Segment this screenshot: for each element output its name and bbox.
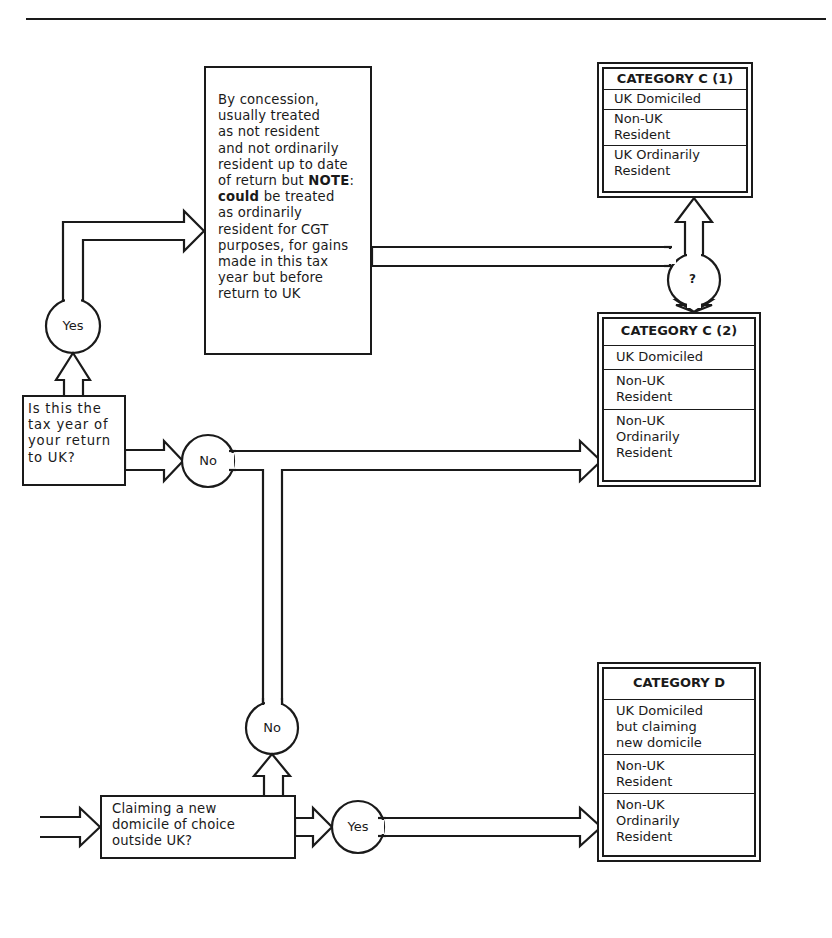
question-box-return-year: Is this the tax year of your return to U… — [22, 395, 126, 486]
category-row: Non-UK Ordinarily Resident — [604, 409, 754, 465]
note-line: as ordinarily — [218, 205, 362, 221]
category-c1-box: CATEGORY C (1) UK Domiciled Non-UK Resid… — [597, 62, 753, 198]
question-line: Is this the — [28, 401, 124, 417]
question-line: domicile of choice — [112, 817, 294, 833]
category-row-text: Resident — [616, 389, 754, 405]
note-line: of return but NOTE: — [218, 173, 362, 189]
note-text: be treated — [259, 189, 334, 204]
category-row: UK Domiciled — [604, 89, 746, 109]
category-row: Non-UK Resident — [604, 369, 754, 409]
category-row: UK Ordinarily Resident — [604, 145, 746, 181]
note-line: could be treated — [218, 189, 362, 205]
arrow-no-to-cat-c2 — [228, 441, 601, 720]
note-line: resident for CGT — [218, 222, 362, 238]
no-label-2: No — [247, 720, 297, 735]
note-text: : — [349, 173, 354, 188]
category-c2-box: CATEGORY C (2) UK Domiciled Non-UK Resid… — [597, 312, 761, 487]
category-row: Non-UK Resident — [604, 109, 746, 145]
category-row-text: Non-UK — [616, 413, 754, 429]
yes-label-1: Yes — [48, 318, 98, 333]
category-c1-inner: CATEGORY C (1) UK Domiciled Non-UK Resid… — [602, 67, 748, 193]
question-box-new-domicile: Claiming a new domicile of choice outsid… — [100, 795, 296, 859]
category-row-text: Resident — [614, 127, 746, 143]
category-title: CATEGORY D — [604, 669, 754, 699]
concession-note-box: By concession, usually treated as not re… — [204, 66, 372, 355]
category-row: Non-UK Resident — [604, 754, 754, 793]
arrow-q1-to-yes — [56, 353, 90, 396]
arrow-yes-to-note — [63, 211, 204, 302]
no-label-1: No — [183, 453, 233, 468]
yes-label-2: Yes — [333, 819, 383, 834]
note-emphasis: could — [218, 189, 259, 204]
category-row-text: but claiming — [616, 719, 754, 735]
category-title: CATEGORY C (2) — [604, 319, 754, 345]
category-row-text: UK Domiciled — [616, 349, 754, 365]
category-row-text: Ordinarily — [616, 429, 754, 445]
note-line: year but before — [218, 270, 362, 286]
arrow-q2-to-yes — [295, 808, 332, 846]
category-row-text: Non-UK — [616, 373, 754, 389]
category-row: UK Domiciled — [604, 345, 754, 369]
note-line: as not resident — [218, 124, 362, 140]
note-emphasis: NOTE — [308, 173, 349, 188]
tube-note-to-uncertain — [372, 247, 670, 266]
category-row-text: UK Ordinarily — [614, 147, 746, 163]
note-line: return to UK — [218, 286, 362, 302]
uncertain-label: ? — [689, 272, 696, 286]
note-line: By concession, — [218, 92, 362, 108]
category-row-text: UK Domiciled — [614, 91, 746, 107]
category-row-text: Resident — [616, 829, 754, 845]
note-line: and not ordinarily — [218, 141, 362, 157]
category-d-inner: CATEGORY D UK Domiciled but claiming new… — [602, 667, 756, 857]
category-row: Non-UK Ordinarily Resident — [604, 793, 754, 848]
question-line: Claiming a new — [112, 801, 294, 817]
category-c2-inner: CATEGORY C (2) UK Domiciled Non-UK Resid… — [602, 317, 756, 482]
arrow-q1-to-no — [125, 441, 183, 481]
arrow-q2-to-no — [254, 754, 290, 796]
category-row-text: Ordinarily — [616, 813, 754, 829]
category-row-text: Non-UK — [616, 758, 754, 774]
category-row-text: Resident — [616, 445, 754, 461]
category-title: CATEGORY C (1) — [604, 69, 746, 89]
category-row-text: new domicile — [616, 735, 754, 751]
category-d-box: CATEGORY D UK Domiciled but claiming new… — [597, 662, 761, 862]
category-row-text: Resident — [616, 774, 754, 790]
note-text: of return but — [218, 173, 308, 188]
arrow-into-q2 — [40, 808, 100, 846]
arrow-yes-to-cat-d — [375, 808, 601, 846]
category-row-text: Non-UK — [616, 797, 754, 813]
question-line: outside UK? — [112, 833, 294, 849]
note-line: usually treated — [218, 108, 362, 124]
category-row-text: UK Domiciled — [616, 703, 754, 719]
category-row-text: Non-UK — [614, 111, 746, 127]
question-line: tax year of — [28, 417, 124, 433]
question-line: your return — [28, 433, 124, 449]
category-row: UK Domiciled but claiming new domicile — [604, 699, 754, 754]
question-line: to UK? — [28, 450, 124, 466]
note-line: resident up to date — [218, 157, 362, 173]
category-row-text: Resident — [614, 163, 746, 179]
note-line: purposes, for gains — [218, 238, 362, 254]
note-line: made in this tax — [218, 254, 362, 270]
